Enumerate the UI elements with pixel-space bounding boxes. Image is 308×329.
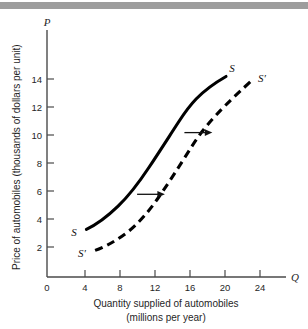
y-tick-label: 14 bbox=[31, 74, 42, 85]
x-tick-label: 8 bbox=[117, 282, 122, 293]
y-tick-label: 8 bbox=[37, 158, 42, 169]
y-tick-label: 10 bbox=[31, 130, 42, 141]
y-axis-symbol-P: P bbox=[43, 16, 51, 28]
y-tick-label: 2 bbox=[37, 242, 42, 253]
y-axis-tick-labels: 14 12 10 8 6 4 2 bbox=[31, 74, 42, 253]
y-axis-title: Price of automobiles (thousands of dolla… bbox=[11, 44, 22, 270]
x-axis-tick-labels: 0 4 8 12 16 20 24 bbox=[44, 282, 265, 293]
y-tick-label: 4 bbox=[37, 214, 42, 225]
x-axis-title-units: (millions per year) bbox=[126, 312, 205, 323]
curve-label-S-prime-top: S′ bbox=[258, 72, 267, 84]
y-tick-label: 12 bbox=[31, 102, 42, 113]
x-tick-label: 16 bbox=[185, 282, 196, 293]
supply-curve-S bbox=[86, 77, 226, 230]
supply-curve-S-prime bbox=[95, 80, 253, 251]
supply-shift-chart: 14 12 10 8 6 4 2 0 4 8 12 16 20 24 bbox=[0, 0, 308, 329]
y-axis-ticks bbox=[47, 79, 54, 247]
x-tick-label: 12 bbox=[150, 282, 161, 293]
x-tick-label: 20 bbox=[220, 282, 231, 293]
x-axis-title: Quantity supplied of automobiles bbox=[93, 298, 238, 309]
x-tick-label: 4 bbox=[82, 282, 87, 293]
y-tick-label: 6 bbox=[37, 186, 42, 197]
supply-curve-figure: 14 12 10 8 6 4 2 0 4 8 12 16 20 24 bbox=[0, 0, 308, 329]
x-tick-label: 24 bbox=[255, 282, 266, 293]
curve-label-S-prime-bottom: S′ bbox=[78, 247, 87, 259]
x-axis-ticks bbox=[85, 270, 260, 277]
shift-arrow-upper bbox=[184, 129, 212, 136]
x-axis-symbol-Q: Q bbox=[291, 271, 299, 283]
curve-label-S-top: S bbox=[229, 62, 235, 74]
x-tick-label: 0 bbox=[44, 282, 49, 293]
curve-label-S-bottom: S bbox=[71, 226, 77, 238]
